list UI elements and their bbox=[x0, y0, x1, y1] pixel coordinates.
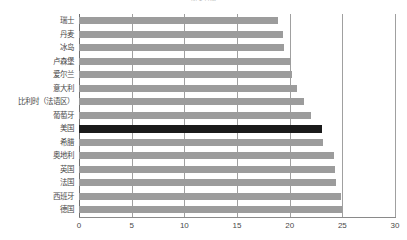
bar bbox=[79, 166, 335, 173]
plot-area bbox=[79, 14, 395, 217]
chart-title: 图 1 各国 bbox=[0, 0, 407, 1]
category-label: 瑞士 bbox=[60, 14, 74, 28]
bar-chart: 图 1 各国 瑞士丹麦冰岛卢森堡爱尔兰意大利比利时（法语区）葡萄牙美国希腊奥地利… bbox=[0, 0, 407, 240]
x-tick-label: 0 bbox=[77, 220, 81, 232]
bar bbox=[79, 112, 311, 119]
x-tick-label: 30 bbox=[391, 220, 400, 232]
category-label: 英国 bbox=[60, 163, 74, 177]
bar bbox=[79, 98, 304, 105]
bar bbox=[79, 31, 283, 38]
bar-row bbox=[79, 203, 395, 217]
x-axis-tick-labels: 051015202530 bbox=[0, 220, 407, 234]
bar-row bbox=[79, 55, 395, 69]
bar-row bbox=[79, 68, 395, 82]
bar-row bbox=[79, 41, 395, 55]
bar-row bbox=[79, 82, 395, 96]
bar bbox=[79, 85, 297, 92]
bar bbox=[79, 17, 278, 24]
bar-row bbox=[79, 149, 395, 163]
bar-row bbox=[79, 122, 395, 136]
category-label: 冰岛 bbox=[60, 41, 74, 55]
category-label: 奥地利 bbox=[53, 149, 74, 163]
x-tick-label: 5 bbox=[129, 220, 133, 232]
bar-row bbox=[79, 95, 395, 109]
bar-row bbox=[79, 190, 395, 204]
x-tick-label: 10 bbox=[180, 220, 189, 232]
bar bbox=[79, 71, 292, 78]
gridline-30 bbox=[395, 14, 396, 217]
x-tick-label: 25 bbox=[338, 220, 347, 232]
bar-highlight bbox=[79, 125, 322, 133]
bar-row bbox=[79, 176, 395, 190]
x-tick-label: 20 bbox=[285, 220, 294, 232]
category-label: 意大利 bbox=[53, 82, 74, 96]
category-label: 美国 bbox=[60, 122, 74, 136]
category-label: 爱尔兰 bbox=[53, 68, 74, 82]
bar-row bbox=[79, 109, 395, 123]
x-tick-label: 15 bbox=[233, 220, 242, 232]
bar bbox=[79, 44, 284, 51]
bar bbox=[79, 179, 336, 186]
category-label: 德国 bbox=[60, 203, 74, 217]
bar bbox=[79, 152, 334, 159]
category-label: 西班牙 bbox=[53, 190, 74, 204]
y-axis-category-labels: 瑞士丹麦冰岛卢森堡爱尔兰意大利比利时（法语区）葡萄牙美国希腊奥地利英国法国西班牙… bbox=[0, 14, 76, 217]
bar-row bbox=[79, 28, 395, 42]
bar-row bbox=[79, 136, 395, 150]
x-axis-line bbox=[79, 217, 396, 218]
category-label: 葡萄牙 bbox=[53, 109, 74, 123]
bar-row bbox=[79, 163, 395, 177]
bar-row bbox=[79, 14, 395, 28]
category-label: 希腊 bbox=[60, 136, 74, 150]
bar bbox=[79, 139, 323, 146]
category-label: 卢森堡 bbox=[53, 55, 74, 69]
bar bbox=[79, 206, 342, 213]
category-label: 丹麦 bbox=[60, 28, 74, 42]
category-label: 比利时（法语区） bbox=[18, 95, 74, 109]
bar bbox=[79, 193, 341, 200]
bar bbox=[79, 58, 291, 65]
category-label: 法国 bbox=[60, 176, 74, 190]
